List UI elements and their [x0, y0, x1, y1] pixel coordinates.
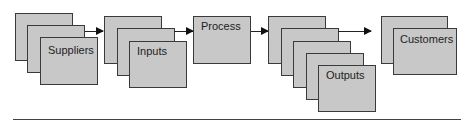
suppliers-label: Suppliers: [48, 44, 94, 56]
sipoc-diagram: Suppliers Inputs Process Outputs Custome…: [0, 0, 469, 121]
arrow-process-to-outputs: [251, 31, 268, 32]
arrow-inputs-to-process: [174, 31, 193, 32]
arrow-outputs-to-customers: [338, 31, 371, 32]
bottom-rule: [13, 119, 461, 120]
inputs-label: Inputs: [137, 45, 167, 57]
outputs-label: Outputs: [326, 69, 365, 81]
arrow-suppliers-to-inputs: [85, 31, 103, 32]
customers-label: Customers: [400, 33, 453, 45]
process-label: Process: [201, 20, 241, 32]
